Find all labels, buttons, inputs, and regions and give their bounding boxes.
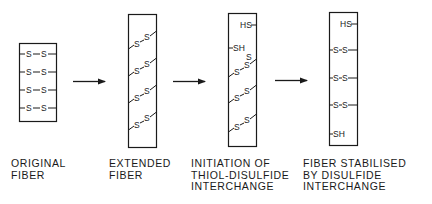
initiation-fiber: HS SH S SS SS SS xyxy=(229,14,257,147)
caption-line: INTERCHANGE xyxy=(191,181,289,193)
caption-line: INITIATION OF xyxy=(191,158,289,170)
svg-text:S: S xyxy=(244,115,250,125)
initiation-fiber-box xyxy=(229,14,257,147)
svg-text:S: S xyxy=(342,73,348,83)
svg-text:S: S xyxy=(333,100,339,110)
svg-text:S: S xyxy=(244,86,250,96)
svg-text:S: S xyxy=(234,67,240,77)
stabilised-hs-label: HS xyxy=(340,19,352,29)
svg-text:S: S xyxy=(41,67,47,77)
svg-text:S: S xyxy=(26,67,32,77)
caption-line: EXTENDED xyxy=(109,158,171,170)
caption-line: INTERCHANGE xyxy=(303,181,406,193)
thiol-sh-label: SH xyxy=(233,43,245,53)
svg-text:S: S xyxy=(342,45,348,55)
thiol-hs-label: HS xyxy=(240,20,252,30)
svg-text:S: S xyxy=(26,49,32,59)
caption-initiation: INITIATION OF THIOL-DISULFIDE INTERCHANG… xyxy=(191,158,289,193)
svg-text:S: S xyxy=(144,86,150,96)
stabilised-sh-label: SH xyxy=(333,129,345,139)
caption-line: ORIGINAL xyxy=(11,158,66,170)
caption-line: FIBER xyxy=(109,170,171,182)
svg-text:S: S xyxy=(41,49,47,59)
svg-text:S: S xyxy=(144,113,150,123)
svg-text:S: S xyxy=(234,122,240,132)
svg-text:S: S xyxy=(41,103,47,113)
extended-sulfur-labels: SS SS SS SS xyxy=(134,32,150,130)
caption-extended: EXTENDED FIBER xyxy=(109,158,171,181)
extended-fiber: SS SS SS SS xyxy=(129,15,157,148)
original-sulfur-labels: SS SS SS SS xyxy=(26,49,47,113)
caption-line: FIBER STABILISED xyxy=(303,158,406,170)
svg-text:S: S xyxy=(144,59,150,69)
svg-text:S: S xyxy=(134,39,140,49)
svg-text:S: S xyxy=(26,85,32,95)
svg-text:S: S xyxy=(234,93,240,103)
svg-text:S: S xyxy=(333,73,339,83)
original-fiber: SS SS SS SS xyxy=(20,44,57,122)
caption-stabilised: FIBER STABILISED BY DISULFIDE INTERCHANG… xyxy=(303,158,406,193)
svg-text:S: S xyxy=(134,120,140,130)
initiation-bonds xyxy=(229,25,257,132)
svg-text:S: S xyxy=(134,66,140,76)
initiation-group-labels: HS SH S SS SS SS xyxy=(233,20,252,132)
caption-line: FIBER xyxy=(11,170,66,182)
extended-diagonal-bonds xyxy=(129,31,157,130)
svg-text:S: S xyxy=(26,103,32,113)
svg-text:S: S xyxy=(144,32,150,42)
original-bonds xyxy=(20,54,57,108)
svg-text:S: S xyxy=(41,85,47,95)
svg-text:S: S xyxy=(333,45,339,55)
svg-text:S: S xyxy=(134,93,140,103)
svg-text:S: S xyxy=(342,100,348,110)
svg-text:S: S xyxy=(244,60,250,70)
stabilised-fiber: HS SS SS SS SH xyxy=(330,13,358,146)
stabilised-labels: HS SS SS SS SH xyxy=(333,19,352,139)
caption-original: ORIGINAL FIBER xyxy=(11,158,66,181)
